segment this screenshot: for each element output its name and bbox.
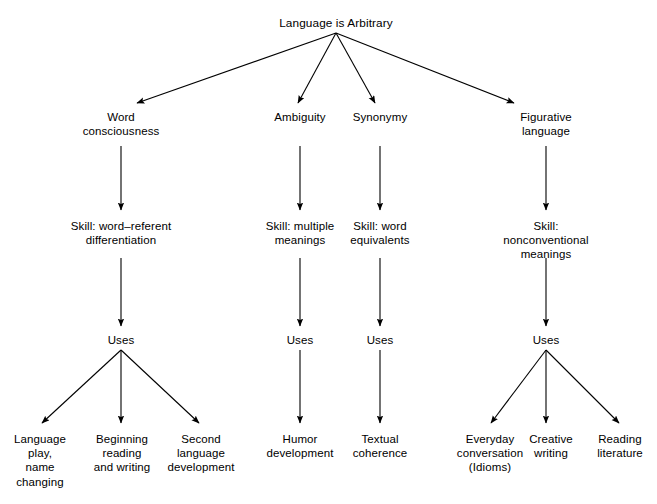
node-skill-nonconventional-meanings: Skill: nonconventional meanings bbox=[491, 219, 602, 262]
edge-uses-word-consciousness-to-language-play bbox=[42, 350, 121, 423]
node-reading-literature: Reading literature bbox=[597, 432, 643, 460]
node-figurative-language: Figurative language bbox=[520, 110, 572, 138]
node-creative-writing: Creative writing bbox=[529, 432, 573, 460]
edge-root-to-synonymy bbox=[336, 33, 375, 103]
node-skill-word-equivalents: Skill: word equivalents bbox=[350, 219, 409, 247]
node-textual-coherence: Textual coherence bbox=[353, 432, 408, 460]
edge-root-to-word-consciousness bbox=[137, 33, 336, 103]
edge-uses-figurative-language-to-everyday-conversation bbox=[491, 350, 546, 423]
node-second-language-development: Second language development bbox=[168, 432, 235, 475]
node-uses-figurative-language: Uses bbox=[533, 333, 560, 347]
node-language-play-name-changing: Language play, name changing bbox=[14, 432, 66, 489]
node-uses-ambiguity: Uses bbox=[287, 333, 314, 347]
node-skill-word-referent-differentiation: Skill: word–referent differentiation bbox=[71, 219, 171, 247]
node-everyday-conversation-idioms: Everyday conversation (Idioms) bbox=[457, 432, 523, 475]
node-humor-development: Humor development bbox=[267, 432, 334, 460]
node-beginning-reading-and-writing: Beginning reading and writing bbox=[94, 432, 151, 475]
node-ambiguity: Ambiguity bbox=[274, 110, 325, 124]
language-arbitrary-tree-diagram: Language is Arbitrary Word consciousness… bbox=[0, 0, 657, 504]
node-uses-synonymy: Uses bbox=[367, 333, 394, 347]
node-uses-word-consciousness: Uses bbox=[108, 333, 135, 347]
edge-uses-figurative-language-to-reading-literature bbox=[546, 350, 619, 423]
edge-root-to-figurative-language bbox=[336, 33, 514, 103]
node-root-language-is-arbitrary: Language is Arbitrary bbox=[279, 16, 393, 30]
node-skill-multiple-meanings: Skill: multiple meanings bbox=[266, 219, 335, 247]
edge-root-to-ambiguity bbox=[298, 33, 336, 103]
node-synonymy: Synonymy bbox=[353, 110, 408, 124]
edge-uses-word-consciousness-to-second-language bbox=[121, 350, 199, 423]
node-word-consciousness: Word consciousness bbox=[83, 110, 160, 138]
